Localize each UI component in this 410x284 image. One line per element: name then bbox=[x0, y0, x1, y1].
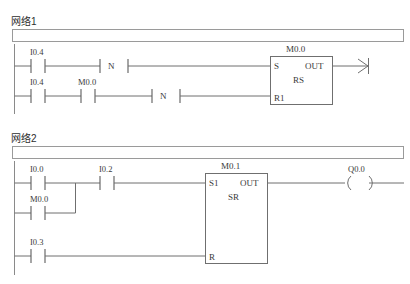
contact-glyph-n-rung1: N bbox=[108, 61, 115, 71]
block-label-m00: M0.0 bbox=[286, 44, 306, 54]
contact-i04-rung2[interactable] bbox=[31, 89, 45, 103]
contact-glyph-n-rung2: N bbox=[160, 91, 167, 101]
block-output-out-sr: OUT bbox=[240, 178, 259, 188]
output-coil-q00[interactable] bbox=[348, 176, 373, 190]
block-type-rs: RS bbox=[293, 75, 304, 85]
coil-label-q00: Q0.0 bbox=[348, 164, 365, 174]
contact-m00-branch[interactable] bbox=[31, 206, 45, 220]
block-input-r: R bbox=[209, 252, 215, 262]
contact-label-i03-rung5: I0.3 bbox=[30, 237, 43, 247]
contact-m00-rung2[interactable] bbox=[81, 89, 95, 103]
contact-label-i04-rung1: I0.4 bbox=[30, 47, 44, 57]
block-input-s: S bbox=[274, 61, 279, 71]
contact-i02-rung3[interactable] bbox=[100, 176, 114, 190]
contact-label-i02-rung3: I0.2 bbox=[99, 164, 112, 174]
contact-i00-rung3[interactable] bbox=[31, 176, 45, 190]
ladder-diagram-canvas: 网络1 网络2 I0.4 N M0.0 S R1 OUT RS bbox=[0, 0, 410, 284]
contact-i04-rung1[interactable] bbox=[31, 59, 45, 73]
block-input-s1: S1 bbox=[209, 178, 219, 188]
ladder-graphics: I0.4 N M0.0 S R1 OUT RS I0.4 bbox=[0, 0, 410, 284]
contact-label-i00-rung3: I0.0 bbox=[30, 164, 43, 174]
contact-label-i04-rung2: I0.4 bbox=[30, 77, 44, 87]
contact-label-m00-rung2: M0.0 bbox=[78, 77, 96, 87]
block-input-r1: R1 bbox=[274, 93, 285, 103]
contact-label-m00-branch: M0.0 bbox=[30, 194, 48, 204]
contact-i03-rung5[interactable] bbox=[31, 249, 45, 263]
block-type-sr: SR bbox=[228, 192, 239, 202]
block-output-out: OUT bbox=[305, 61, 324, 71]
block-label-m01: M0.1 bbox=[221, 161, 240, 171]
